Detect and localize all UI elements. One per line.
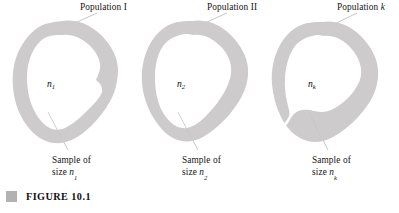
population-blobs xyxy=(13,20,378,143)
figure-illustration xyxy=(0,0,399,213)
population-label-1: Population I xyxy=(80,2,127,13)
sample-label-3-subscript: k xyxy=(334,174,337,181)
inner-size-label-3: nk xyxy=(308,78,316,89)
sample-label-3: Sample of size nk xyxy=(312,155,351,181)
population-label-3-prefix: Population xyxy=(337,2,378,12)
sample-label-2: Sample of size n2 xyxy=(182,155,221,181)
inner-size-label-1: n1 xyxy=(47,78,55,89)
sample-label-1-subscript: 1 xyxy=(74,174,77,181)
population-label-2: Population II xyxy=(207,2,257,13)
inner-size-subscript-3: k xyxy=(313,83,316,90)
figure-caption-row: FIGURE 10.1 xyxy=(6,191,91,202)
figure-container: Population I n1 Sample of size n1 Popula… xyxy=(0,0,399,213)
sample-label-2-prefix: size xyxy=(182,167,199,177)
inner-size-label-2: n2 xyxy=(177,78,185,89)
inner-size-subscript-1: 1 xyxy=(52,83,55,90)
sample-label-1-line2: size n1 xyxy=(52,167,91,181)
sample-label-3-line1: Sample of xyxy=(312,155,351,167)
sample-label-1: Sample of size n1 xyxy=(52,155,91,181)
sample-label-2-line2: size n2 xyxy=(182,167,221,181)
population-blob-2 xyxy=(142,20,248,141)
population-blob-3 xyxy=(272,21,378,141)
population-label-3: Population k xyxy=(337,2,385,13)
population-blob-1 xyxy=(13,20,118,143)
sample-label-1-prefix: size xyxy=(52,167,69,177)
sample-label-3-line2: size nk xyxy=(312,167,351,181)
population-label-2-text: Population II xyxy=(207,2,257,12)
population-label-1-text: Population I xyxy=(80,2,127,12)
caption-square-marker-icon xyxy=(6,191,17,202)
sample-label-2-subscript: 2 xyxy=(204,174,207,181)
figure-caption-text: FIGURE 10.1 xyxy=(26,191,91,202)
sample-label-3-prefix: size xyxy=(312,167,329,177)
sample-label-1-line1: Sample of xyxy=(52,155,91,167)
sample-label-2-line1: Sample of xyxy=(182,155,221,167)
population-label-3-index: k xyxy=(381,2,385,12)
inner-size-subscript-2: 2 xyxy=(182,83,185,90)
